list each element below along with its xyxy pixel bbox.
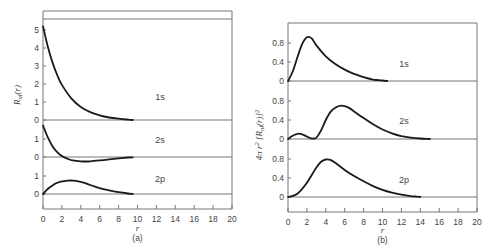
series-2p: 012p <box>34 171 232 199</box>
x-tick-label: 12 <box>152 214 162 224</box>
x-tick-label: 0 <box>286 217 291 227</box>
y-tick-label: 1 <box>34 97 39 107</box>
y-tick-label: 3 <box>34 61 39 71</box>
panel-caption: (a) <box>132 233 143 243</box>
y-tick-label: 0 <box>34 115 39 125</box>
x-axis-title: r <box>381 225 385 235</box>
y-tick-label: 1 <box>34 171 39 181</box>
x-tick-label: 6 <box>342 217 347 227</box>
y-axis-title: 4π r2 [Rnl(r)]2 <box>253 109 265 160</box>
series-label: 2s <box>155 135 165 145</box>
x-tick-label: 0 <box>41 214 46 224</box>
x-tick-label: 14 <box>171 214 181 224</box>
y-tick-label: 0.8 <box>272 96 284 106</box>
y-tick-label: 5 <box>34 25 39 35</box>
panel-a-radial-wavefunctions: 02468101214161820r(a)Rnl(r)0123451s012s0… <box>12 11 237 243</box>
x-tick-label: 18 <box>453 217 463 227</box>
series-label: 2s <box>399 116 409 126</box>
x-tick-label: 6 <box>97 214 102 224</box>
y-tick-label: 0.8 <box>272 154 284 164</box>
y-tick-label: 2 <box>34 79 39 89</box>
series-label: 2p <box>399 175 409 185</box>
x-tick-label: 18 <box>208 214 218 224</box>
y-tick-label: 1 <box>34 134 39 144</box>
series-label: 1s <box>399 59 409 69</box>
y-tick-label: 0.4 <box>272 173 284 183</box>
y-tick-label: 4 <box>34 43 39 53</box>
y-tick-label: 0.4 <box>272 115 284 125</box>
x-tick-label: 20 <box>472 217 482 227</box>
x-tick-label: 2 <box>305 217 310 227</box>
series-2s: 00.40.82s <box>272 96 477 144</box>
x-tick-label: 20 <box>227 214 237 224</box>
y-tick-label: 0 <box>279 134 284 144</box>
y-tick-label: 0 <box>34 189 39 199</box>
y-tick-label: 0 <box>34 152 39 162</box>
radial-functions-figure: 02468101214161820r(a)Rnl(r)0123451s012s0… <box>0 0 493 250</box>
series-label: 2p <box>155 174 165 184</box>
series-2p: 00.40.82p <box>272 154 477 202</box>
series-1s: 00.40.81s <box>272 37 477 86</box>
x-axis-title: r <box>136 223 140 233</box>
x-tick-label: 8 <box>361 217 366 227</box>
y-tick-label: 0.4 <box>272 57 284 67</box>
curve-1s <box>288 37 387 81</box>
x-tick-label: 4 <box>78 214 83 224</box>
series-1s: 0123451s <box>34 25 232 125</box>
y-tick-label: 0 <box>279 192 284 202</box>
panel-b-radial-probability: 02468101214161820r(b)4π r2 [Rnl(r)]200.4… <box>253 23 482 245</box>
x-tick-label: 14 <box>416 217 426 227</box>
y-axis-title: Rnl(r) <box>12 85 23 106</box>
curve-2s <box>43 126 133 162</box>
y-tick-label: 0.8 <box>272 38 284 48</box>
x-tick-label: 2 <box>60 214 65 224</box>
x-tick-label: 16 <box>189 214 199 224</box>
x-tick-label: 4 <box>323 217 328 227</box>
x-tick-label: 8 <box>116 214 121 224</box>
x-tick-label: 16 <box>434 217 444 227</box>
curve-2p <box>43 180 133 194</box>
curve-1s <box>43 26 133 120</box>
series-label: 1s <box>155 92 165 102</box>
x-tick-label: 12 <box>397 217 407 227</box>
series-2s: 012s <box>34 126 232 163</box>
y-tick-label: 0 <box>279 76 284 86</box>
panel-caption: (b) <box>377 235 388 245</box>
